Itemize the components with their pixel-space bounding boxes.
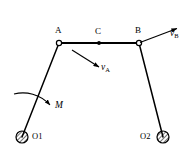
crank-o2b-link [139, 43, 163, 137]
label-pivot-o2: O2 [140, 132, 150, 141]
label-pivot-o1: O1 [32, 132, 42, 141]
joint-b-marker [136, 40, 141, 45]
label-point-a: A [55, 26, 62, 35]
label-point-c: C [95, 27, 101, 36]
label-point-b: B [135, 26, 141, 35]
velocity-b-subscript: B [174, 32, 178, 39]
crank-o1a-link [22, 43, 59, 137]
ground-pivot-o1 [16, 131, 28, 143]
joint-a-marker [56, 40, 61, 45]
linkage-figure: A C B O1 O2 vA vB M [0, 0, 196, 156]
velocity-a-subscript: A [105, 66, 110, 73]
ground-pivot-o2 [157, 131, 169, 143]
label-moment-m: M [55, 101, 63, 111]
label-velocity-b: vB [170, 29, 179, 39]
label-velocity-a: vA [101, 63, 110, 73]
velocity-a-arrow [72, 50, 99, 67]
point-c-marker [97, 41, 101, 45]
moment-arc-arrow [14, 93, 50, 105]
linkage-drawing-canvas [0, 0, 196, 156]
